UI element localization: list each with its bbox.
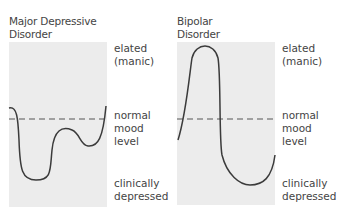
mdd-depressed-text: depressed bbox=[114, 190, 168, 203]
mdd-elated-text: elated bbox=[114, 42, 154, 55]
bipolar-elated-label: elated (manic) bbox=[282, 42, 322, 68]
mdd-depressed-label: clinically depressed bbox=[114, 177, 168, 203]
bipolar-title: Bipolar Disorder bbox=[177, 15, 220, 41]
mdd-title: Major Depressive Disorder bbox=[9, 15, 97, 41]
mdd-mood-text: mood bbox=[114, 122, 151, 135]
mdd-title-line1: Major Depressive bbox=[9, 15, 97, 28]
bipolar-title-line1: Bipolar bbox=[177, 15, 220, 28]
bipolar-elated-text: elated bbox=[282, 42, 322, 55]
bipolar-normal-text: normal bbox=[282, 109, 319, 122]
bipolar-clinically-text: clinically bbox=[282, 177, 336, 190]
bipolar-panel-bg bbox=[177, 42, 275, 205]
mdd-panel-bg bbox=[9, 42, 107, 207]
bipolar-manic-text: (manic) bbox=[282, 55, 322, 68]
bipolar-title-line2: Disorder bbox=[177, 28, 220, 41]
bipolar-level-text: level bbox=[282, 135, 319, 148]
mdd-normal-text: normal bbox=[114, 109, 151, 122]
mdd-normal-label: normal mood level bbox=[114, 109, 151, 148]
bipolar-depressed-label: clinically depressed bbox=[282, 177, 336, 203]
mdd-title-line2: Disorder bbox=[9, 28, 97, 41]
bipolar-mood-text: mood bbox=[282, 122, 319, 135]
bipolar-normal-label: normal mood level bbox=[282, 109, 319, 148]
mdd-clinically-text: clinically bbox=[114, 177, 168, 190]
mdd-level-text: level bbox=[114, 135, 151, 148]
mdd-manic-text: (manic) bbox=[114, 55, 154, 68]
mdd-elated-label: elated (manic) bbox=[114, 42, 154, 68]
bipolar-depressed-text: depressed bbox=[282, 190, 336, 203]
